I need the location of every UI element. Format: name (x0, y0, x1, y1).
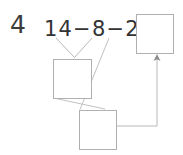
result-box[interactable] (136, 14, 174, 54)
arrow-from-second-step-box-to-result-box (117, 54, 161, 126)
first-step-box[interactable] (53, 59, 92, 99)
line-from-first-step-box-to-second-step-box (54, 98, 106, 109)
problem-number: 4 (10, 11, 26, 39)
second-step-box[interactable] (79, 110, 117, 150)
worksheet-problem-canvas: 4 14−8−2= (0, 0, 183, 155)
